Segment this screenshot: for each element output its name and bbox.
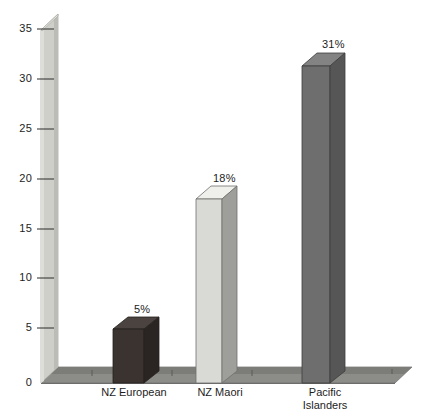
axis-left-edge	[41, 27, 44, 383]
bar-1-side-face	[144, 317, 159, 383]
value-label-nz-maori: 18%	[213, 172, 236, 184]
bar-nz-european[interactable]	[113, 317, 159, 383]
axis-right-edge	[54, 14, 58, 370]
value-label-nz-european: 5%	[134, 303, 150, 315]
bar-2-front-face	[196, 199, 222, 383]
y-tick-label-0: 0	[0, 376, 32, 388]
bar-3-side-face	[330, 53, 345, 383]
x-category-label-nz-maori: NZ Maori	[172, 386, 268, 399]
x-category-label-pacific-line2: Islanders	[272, 399, 378, 412]
x-category-label-pacific-islanders: Pacific Islanders	[272, 386, 378, 412]
chart-graphics	[0, 0, 428, 420]
bar-2-side-face	[222, 186, 237, 383]
bar-nz-maori[interactable]	[196, 186, 237, 383]
value-label-pacific-islanders: 31%	[322, 38, 345, 50]
x-category-label-pacific-line1: Pacific	[272, 386, 378, 399]
bar-3-front-face	[302, 66, 330, 383]
y-tick-label-30: 30	[0, 72, 32, 84]
y-tick-label-5: 5	[0, 321, 32, 333]
y-tick-label-10: 10	[0, 271, 32, 283]
bar-pacific-islanders[interactable]	[302, 53, 345, 383]
bar-1-front-face	[113, 329, 144, 383]
y-tick-label-15: 15	[0, 222, 32, 234]
y-tick-label-35: 35	[0, 22, 32, 34]
y-tick-label-20: 20	[0, 172, 32, 184]
y-tick-label-25: 25	[0, 122, 32, 134]
bar-chart: 35 30 25 20 15 10 5 0 5% 18% 31% NZ Euro…	[0, 0, 428, 420]
